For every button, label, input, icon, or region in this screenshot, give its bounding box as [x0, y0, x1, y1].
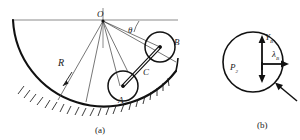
label-radius-r: R — [57, 57, 64, 68]
caption-panel-a: (a) — [95, 125, 105, 135]
body-a-center-marker — [121, 84, 125, 88]
panel-b: YB λB P2 (b) — [223, 32, 297, 130]
label-body-b: B — [174, 37, 180, 47]
body-b-center-marker — [158, 45, 162, 49]
surface-indicator-arrow — [63, 72, 72, 86]
contact-reaction-arrow — [275, 83, 297, 102]
force-vector-weight-arrow — [259, 62, 266, 83]
bowl-arc-right-tip — [176, 58, 178, 71]
panel-a: O θ R A B C (a) — [12, 8, 180, 135]
label-weight-p2: P2 — [229, 62, 239, 74]
label-angle-theta: θ — [128, 25, 133, 35]
label-force-yb: YB — [265, 32, 273, 44]
force-vector-lambda-b — [262, 61, 289, 68]
label-point-o: O — [97, 9, 104, 19]
label-body-a: A — [117, 95, 124, 105]
figure-container: O θ R A B C (a) — [0, 0, 300, 140]
diagram-canvas: O θ R A B C (a) — [0, 0, 300, 140]
point-o-marker — [101, 19, 104, 22]
angle-arc-theta — [134, 21, 139, 32]
label-rod-c: C — [143, 67, 150, 77]
caption-panel-b: (b) — [257, 120, 268, 130]
label-force-lambda-b: λB — [271, 49, 279, 61]
